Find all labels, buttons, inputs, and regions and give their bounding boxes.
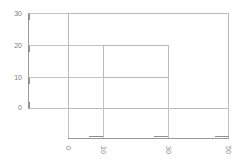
- x-drop-line-10: [103, 78, 104, 138]
- y-connector-30: [29, 13, 68, 14]
- x-tick-mark-10: [89, 136, 103, 137]
- y-tick-mark-20: [28, 45, 30, 52]
- chart-canvas: 30 20 10 0 0 10 30 50: [0, 0, 240, 168]
- inner-rectangle-shape: [103, 45, 169, 78]
- y-tick-label-10: 10: [4, 74, 22, 81]
- x-tick-label-0: 0: [65, 146, 72, 150]
- y-tick-label-0: 0: [4, 104, 22, 111]
- y-tick-label-20: 20: [4, 42, 22, 49]
- x-tick-mark-30: [154, 136, 168, 137]
- x-drop-line-50: [228, 109, 229, 138]
- x-axis-spine: [68, 138, 229, 139]
- y-tick-mark-30: [28, 13, 30, 20]
- y-axis-spine: [28, 13, 29, 109]
- x-drop-line-0: [68, 109, 69, 138]
- x-tick-label-50: 50: [225, 146, 232, 154]
- y-connector-0: [29, 108, 68, 109]
- y-tick-mark-10: [28, 77, 30, 84]
- x-tick-label-10: 10: [100, 146, 107, 154]
- x-tick-label-30: 30: [165, 146, 172, 154]
- x-drop-line-30: [168, 78, 169, 138]
- y-tick-label-30: 30: [4, 10, 22, 17]
- x-tick-mark-50: [215, 136, 229, 137]
